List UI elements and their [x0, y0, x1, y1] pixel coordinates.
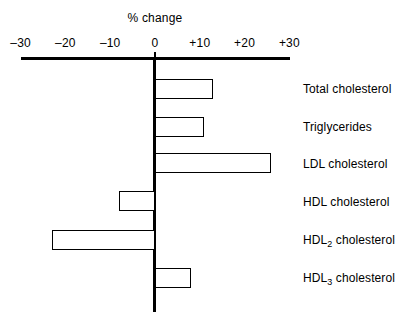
- bar-1: [155, 117, 204, 137]
- bar-0: [155, 79, 213, 99]
- plot-area: Total cholesterolTriglyceridesLDL choles…: [0, 0, 399, 334]
- category-label-1: Triglycerides: [303, 120, 372, 134]
- bar-chart-figure: % change –30–20–100+10+20+30 Total chole…: [0, 0, 399, 334]
- category-label-5: HDL3 cholesterol: [303, 271, 395, 285]
- category-label-2: LDL cholesterol: [303, 157, 387, 171]
- category-label-0: Total cholesterol: [303, 82, 391, 96]
- bar-4: [52, 230, 155, 250]
- bar-2: [155, 153, 271, 173]
- category-label-3: HDL cholesterol: [303, 195, 389, 209]
- category-label-4: HDL2 cholesterol: [303, 233, 395, 247]
- bar-5: [155, 268, 191, 288]
- bar-3: [119, 191, 155, 211]
